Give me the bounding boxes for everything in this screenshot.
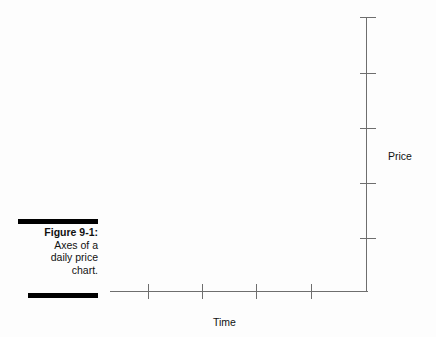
caption-rule-top	[18, 219, 98, 224]
x-axis-tick	[256, 284, 257, 299]
x-axis-tick	[148, 284, 149, 299]
y-axis-line	[366, 17, 367, 292]
y-axis-tick	[360, 17, 376, 18]
x-axis-label: Time	[213, 316, 236, 328]
caption-line-1: Axes of a	[16, 239, 98, 252]
x-axis-tick	[311, 284, 312, 299]
y-axis-tick	[360, 238, 376, 239]
y-axis-label: Price	[388, 150, 412, 162]
y-axis-tick	[360, 73, 376, 74]
caption-text: Figure 9-1: Axes of a daily price chart.	[16, 226, 98, 276]
figure-number-label: Figure 9-1:	[16, 226, 98, 239]
figure-container: Figure 9-1: Axes of a daily price chart.…	[0, 0, 436, 337]
x-axis-tick	[202, 284, 203, 299]
caption-rule-bottom	[28, 293, 98, 298]
y-axis-tick	[360, 128, 376, 129]
caption-line-3: chart.	[16, 264, 98, 277]
caption-line-2: daily price	[16, 251, 98, 264]
y-axis-tick	[360, 183, 376, 184]
